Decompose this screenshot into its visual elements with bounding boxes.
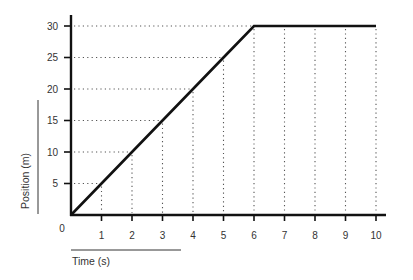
x-tick-label-4: 4 [190, 230, 196, 241]
origin-label: 0 [59, 223, 65, 234]
x-axis-title: Time (s) [72, 255, 110, 267]
x-tick-label-5: 5 [221, 230, 227, 241]
y-tick-label-10: 10 [47, 147, 59, 158]
x-tick-label-3: 3 [160, 230, 166, 241]
dotted-guide-lines [74, 26, 376, 213]
y-tick-label-30: 30 [47, 21, 59, 32]
y-axis-title: Position (m) [19, 153, 31, 209]
x-tick-label-1: 1 [99, 230, 105, 241]
x-tick-label-2: 2 [129, 230, 135, 241]
tick-marks [64, 26, 376, 221]
x-tick-label-6: 6 [251, 230, 257, 241]
x-tick-label-9: 9 [343, 230, 349, 241]
y-tick-label-25: 25 [47, 52, 59, 63]
y-tick-label-15: 15 [47, 115, 59, 126]
y-tick-label-5: 5 [52, 178, 58, 189]
position-line [71, 26, 376, 215]
tick-labels: 1234567891051015202530 [47, 21, 382, 242]
x-tick-label-8: 8 [312, 230, 318, 241]
y-tick-label-20: 20 [47, 84, 59, 95]
x-tick-label-10: 10 [370, 230, 382, 241]
axes [70, 15, 386, 216]
x-tick-label-7: 7 [282, 230, 288, 241]
position-time-chart: 1234567891051015202530 0 Time (s) Positi… [0, 0, 413, 280]
